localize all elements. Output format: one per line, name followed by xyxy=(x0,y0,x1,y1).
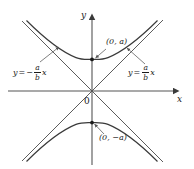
leader-asymptote-left xyxy=(40,47,59,62)
asymptote-left-fraction: a b xyxy=(34,64,41,81)
asymptote-right-variable: x xyxy=(150,69,155,77)
asymptote-right-fraction: a b xyxy=(142,64,149,81)
x-axis-label: x xyxy=(177,95,182,104)
y-axis-label: y xyxy=(81,11,86,20)
asymptote-right-equals: = xyxy=(133,69,142,77)
asymptote-right-denominator: b xyxy=(142,74,149,82)
hyperbola-figure: y x 0 (0, a) (0, −a) y = − a b x y = a b… xyxy=(0,0,194,169)
vertex-bottom-marker xyxy=(90,121,94,125)
vertex-top-marker xyxy=(90,58,94,62)
asymptote-right-numerator: a xyxy=(142,64,148,72)
asymptote-left-minus: − xyxy=(26,69,33,77)
vertex-top-label: (0, a) xyxy=(106,38,127,46)
leader-vertex-top xyxy=(96,49,107,58)
asymptote-left-equation: y = − a b x xyxy=(13,64,46,81)
leader-asymptote-right xyxy=(127,48,145,64)
vertex-bottom-label: (0, −a) xyxy=(99,134,127,142)
asymptote-left-variable: x xyxy=(42,69,47,77)
asymptote-left-denominator: b xyxy=(34,74,41,82)
hyperbola-svg xyxy=(0,0,194,169)
asymptote-left-equals: = xyxy=(18,69,27,77)
asymptote-left-numerator: a xyxy=(34,64,40,72)
origin-label: 0 xyxy=(84,97,90,106)
asymptote-right-equation: y = a b x xyxy=(128,64,155,81)
